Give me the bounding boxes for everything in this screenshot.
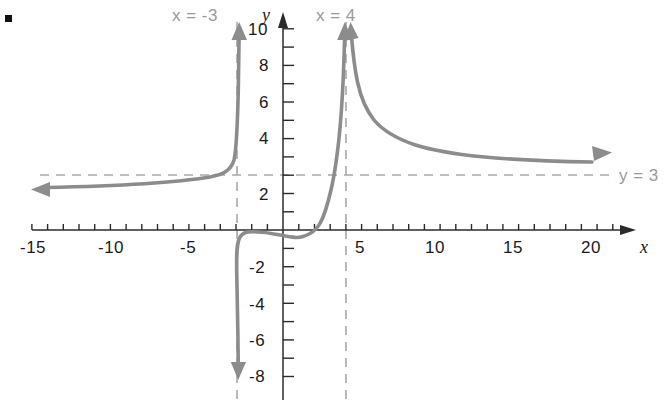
curve-branch-left <box>31 22 247 197</box>
x-tick-label-20: 20 <box>581 238 601 258</box>
y-tick-label-2: 2 <box>259 185 269 205</box>
y-axis-label: y <box>262 5 270 26</box>
curve-branch-right <box>344 22 612 162</box>
x-tick-label--15: -15 <box>20 238 46 258</box>
graph-figure: -15 -10 -5 5 10 15 20 10 8 6 4 2 -2 -4 -… <box>0 0 665 416</box>
y-tick-label--2: -2 <box>249 258 265 278</box>
x-tick-label--5: -5 <box>180 238 196 258</box>
x-axis <box>32 224 636 235</box>
y-tick-label--4: -4 <box>249 295 265 315</box>
y-tick-label--6: -6 <box>249 331 265 351</box>
y-tick-label-8: 8 <box>259 56 269 76</box>
x-tick-label-5: 5 <box>355 238 365 258</box>
coordinate-plane <box>0 0 665 416</box>
horizontal-asymptote-label: y = 3 <box>619 166 659 186</box>
y-tick-label--8: -8 <box>249 367 265 387</box>
x-tick-label--10: -10 <box>98 238 124 258</box>
x-tick-label-15: 15 <box>503 238 523 258</box>
y-tick-label-6: 6 <box>259 93 269 113</box>
curve-branch-middle <box>152 22 353 380</box>
x-tick-label-10: 10 <box>425 238 445 258</box>
y-axis <box>278 12 294 400</box>
x-axis-label: x <box>640 237 648 258</box>
vertical-asymptote-left-label: x = -3 <box>172 6 218 26</box>
vertical-asymptote-right-label: x = 4 <box>316 6 356 26</box>
y-tick-label-4: 4 <box>259 129 269 149</box>
